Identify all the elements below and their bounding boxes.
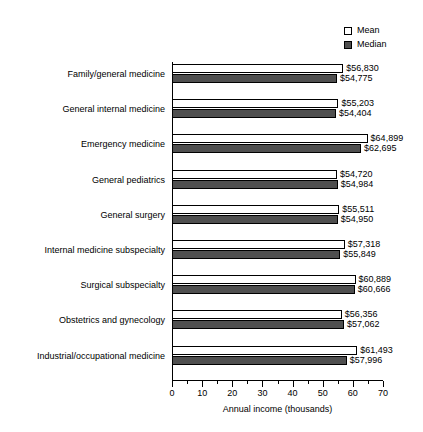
bar-value-label: $60,666 [355,284,391,294]
bar-value-label: $54,950 [338,214,374,224]
bar-group: Family/general medicine$56,830$54,775 [172,64,383,84]
x-tick-0 [172,381,173,387]
bar-median [172,320,344,329]
category-label: Emergency medicine [81,139,165,149]
legend-item-median: Median [344,38,387,51]
bar-row: $54,775 [172,74,383,83]
bar-value-label: $61,493 [357,345,393,355]
x-tick-10 [202,381,203,387]
category-label: Internal medicine subspecialty [44,245,165,255]
x-tick-55 [338,381,339,384]
bar-median [172,356,347,365]
x-tick-label-20: 20 [227,389,237,398]
bar-mean [172,346,357,355]
x-tick-label-10: 10 [197,389,207,398]
bar-group: Obstetrics and gynecology$56,356$57,062 [172,310,383,330]
bar-value-label: $55,511 [339,204,374,214]
x-tick-label-40: 40 [288,389,298,398]
bar-value-label: $56,356 [342,309,378,319]
bar-row: $55,849 [172,250,383,259]
bar-row: $54,720 [172,170,383,179]
bar-row: $60,889 [172,275,383,284]
x-tick-50 [323,381,324,387]
legend-item-mean: Mean [344,24,387,37]
bar-median [172,215,338,224]
bar-mean [172,64,343,73]
category-label: General pediatrics [92,175,165,185]
bar-mean [172,205,339,214]
chart-figure: Mean Median 010203040506070 Annual incom… [0,0,423,432]
x-tick-60 [353,381,354,387]
category-label: General internal medicine [62,104,165,114]
bar-row: $54,984 [172,180,383,189]
bar-mean [172,240,345,249]
bar-value-label: $57,318 [345,239,381,249]
x-tick-20 [232,381,233,387]
bar-median [172,180,338,189]
bar-row: $64,899 [172,134,383,143]
bar-group: General surgery$55,511$54,950 [172,205,383,225]
bar-mean [172,134,368,143]
bar-value-label: $57,996 [347,355,383,365]
bar-row: $54,950 [172,215,383,224]
x-tick-label-30: 30 [257,389,267,398]
x-axis-title: Annual income (thousands) [172,404,383,414]
x-tick-35 [278,381,279,384]
category-label: Surgical subspecialty [80,280,165,290]
bar-group: Surgical subspecialty$60,889$60,666 [172,275,383,295]
bar-value-label: $54,720 [337,169,373,179]
x-tick-70 [383,381,384,387]
bar-row: $55,203 [172,99,383,108]
legend-label-mean: Mean [357,26,380,35]
bar-median [172,250,340,259]
bar-mean [172,99,338,108]
x-tick-45 [308,381,309,384]
x-tick-5 [187,381,188,384]
bar-group: General pediatrics$54,720$54,984 [172,170,383,190]
x-tick-label-0: 0 [169,389,174,398]
bar-row: $55,511 [172,205,383,214]
bar-mean [172,170,337,179]
bar-mean [172,310,342,319]
bar-value-label: $62,695 [361,143,397,153]
bar-median [172,144,361,153]
bar-row: $57,996 [172,356,383,365]
x-tick-30 [262,381,263,387]
bar-value-label: $54,984 [338,179,374,189]
category-label: Industrial/occupational medicine [37,351,165,361]
bar-median [172,109,336,118]
x-tick-65 [368,381,369,384]
bar-median [172,74,337,83]
chart-legend: Mean Median [344,24,387,52]
category-label: Family/general medicine [67,69,165,79]
category-label: Obstetrics and gynecology [59,315,165,325]
bar-row: $57,062 [172,320,383,329]
bar-value-label: $60,889 [356,274,392,284]
bar-row: $57,318 [172,240,383,249]
bar-row: $60,666 [172,285,383,294]
bar-group: Industrial/occupational medicine$61,493$… [172,346,383,366]
bar-value-label: $64,899 [368,133,404,143]
legend-label-median: Median [357,40,387,49]
x-tick-label-60: 60 [348,389,358,398]
bar-value-label: $54,775 [337,73,373,83]
x-tick-label-70: 70 [378,389,388,398]
bar-row: $54,404 [172,109,383,118]
bar-row: $56,356 [172,310,383,319]
plot-area: 010203040506070 Annual income (thousands… [172,62,383,380]
bar-mean [172,275,356,284]
x-tick-40 [293,381,294,387]
x-tick-15 [217,381,218,384]
bar-value-label: $57,062 [344,319,380,329]
legend-swatch-median-icon [344,41,352,49]
bar-value-label: $56,830 [343,63,379,73]
bar-value-label: $54,404 [336,108,372,118]
bar-group: Emergency medicine$64,899$62,695 [172,134,383,154]
bar-value-label: $55,203 [338,98,374,108]
legend-swatch-mean-icon [344,27,352,35]
bar-row: $61,493 [172,346,383,355]
x-tick-25 [247,381,248,384]
bar-group: General internal medicine$55,203$54,404 [172,99,383,119]
bar-group: Internal medicine subspecialty$57,318$55… [172,240,383,260]
category-label: General surgery [100,210,165,220]
